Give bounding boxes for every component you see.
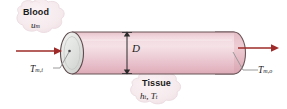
inlet-temperature-label: Tm,i — [30, 65, 43, 75]
blood-velocity-symbol: um — [31, 21, 40, 30]
outlet-temperature-subscript: m,o — [263, 68, 272, 74]
blood-velocity-subscript: m — [36, 23, 40, 29]
blood-vessel-heat-transfer-diagram: Blood um Tissue ht, Tt Tm,i Tm,o D — [0, 0, 287, 109]
blood-callout-title: Blood — [23, 8, 49, 17]
diameter-label: D — [132, 43, 140, 54]
tissue-t-subscript: t — [156, 94, 158, 100]
outlet-temperature-label: Tm,o — [258, 66, 272, 76]
tissue-properties-symbols: ht, Tt — [140, 92, 157, 101]
inlet-temperature-subscript: m,i — [35, 67, 43, 73]
tissue-callout-title: Tissue — [142, 79, 171, 88]
arrow-right-icon-inlet — [16, 47, 62, 55]
vessel-inlet-cross-section — [61, 32, 84, 74]
vessel-cylinder — [72, 32, 246, 74]
